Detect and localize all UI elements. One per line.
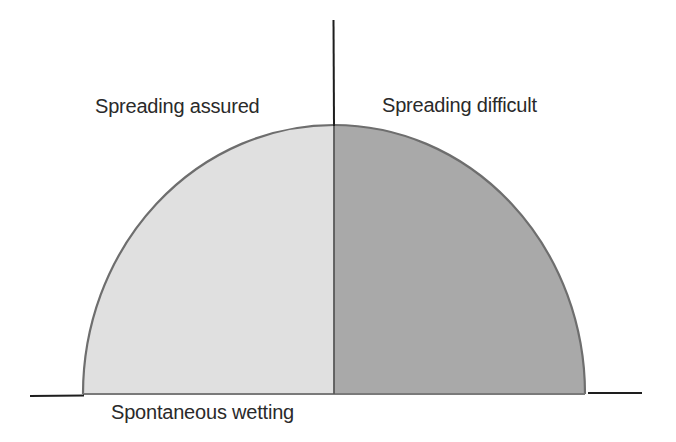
region-spreading-difficult: [334, 125, 585, 394]
label-spontaneous-wetting: Spontaneous wetting: [111, 402, 294, 422]
label-spreading-difficult: Spreading difficult: [382, 95, 537, 115]
region-spreading-assured: [83, 125, 334, 394]
baseline-left-segment: [30, 396, 84, 397]
vertical-axis-line: [334, 20, 335, 126]
label-spreading-assured: Spreading assured: [95, 96, 260, 116]
wetting-diagram: [0, 0, 676, 442]
